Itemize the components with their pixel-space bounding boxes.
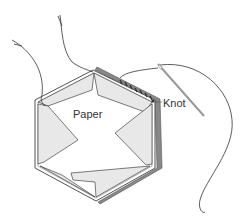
paper-label: Paper — [73, 109, 102, 120]
hexagon-diagram — [0, 0, 245, 219]
knot-label: Knot — [163, 98, 186, 109]
